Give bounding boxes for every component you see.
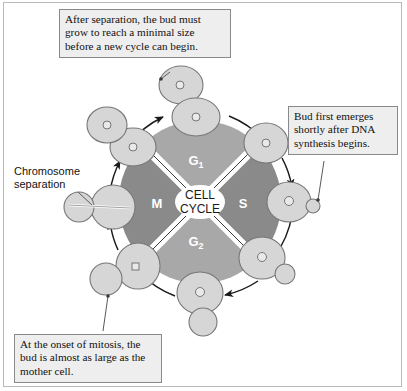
center-label-line2: CYCLE: [180, 202, 220, 216]
center-label-line1: CELL: [185, 188, 215, 202]
phase-label-m: M: [152, 196, 163, 211]
cell-chromosome-separation-left: [64, 185, 135, 229]
cell-cycle-diagram: G1 S G2 M CELL CYCLE: [0, 0, 407, 391]
cycle-arrow-lower-right: [225, 281, 258, 295]
leader-line-bottom: [103, 296, 108, 331]
cell-detached-daughter-upper-left: [87, 107, 127, 143]
callout-box-bud-first-emerges: Bud first emerges shortly after DNA synt…: [288, 106, 398, 155]
cell-g1-top: [172, 98, 220, 136]
leader-line-right: [318, 161, 324, 200]
phase-label-s: S: [239, 196, 248, 211]
cell-mitosis-bottom-large-bud: [177, 272, 223, 336]
label-chromosome-separation: Chromosome separation: [14, 165, 114, 191]
callout-box-after-separation: After separation, the bud must grow to r…: [59, 9, 231, 58]
cell-cycle-figure: G1 S G2 M CELL CYCLE: [0, 0, 407, 391]
cell-mitosis-lower-left-large-bud: [90, 243, 160, 295]
cell-s-right-small-bud: [267, 182, 320, 222]
cell-g2-lower-right-medium-bud: [239, 237, 295, 284]
callout-box-onset-of-mitosis: At the onset of mitosis, the bud is almo…: [14, 334, 162, 383]
cell-g1-s-upper-right: [244, 123, 288, 163]
